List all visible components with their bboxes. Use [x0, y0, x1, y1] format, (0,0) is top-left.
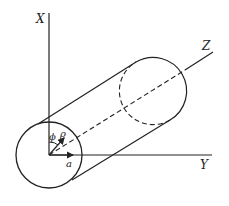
- back-circle-hidden: [119, 62, 170, 125]
- a-label: a: [66, 158, 72, 169]
- phi-label: ϕ: [49, 131, 56, 142]
- x-axis-label: X: [35, 12, 45, 26]
- rho-label: ρ: [59, 128, 66, 139]
- back-circle-visible: [136, 57, 187, 120]
- z-axis-hidden: [49, 70, 185, 155]
- z-axis-label: Z: [201, 39, 211, 53]
- cylinder-top-edge: [38, 62, 136, 124]
- cylinder-bottom-edge: [72, 120, 170, 180]
- y-axis-label: Y: [200, 158, 209, 172]
- z-axis: [185, 52, 213, 70]
- cylinder-diagram: X Y Z ϕ ρ a: [0, 0, 229, 206]
- phi-arc: [49, 142, 58, 145]
